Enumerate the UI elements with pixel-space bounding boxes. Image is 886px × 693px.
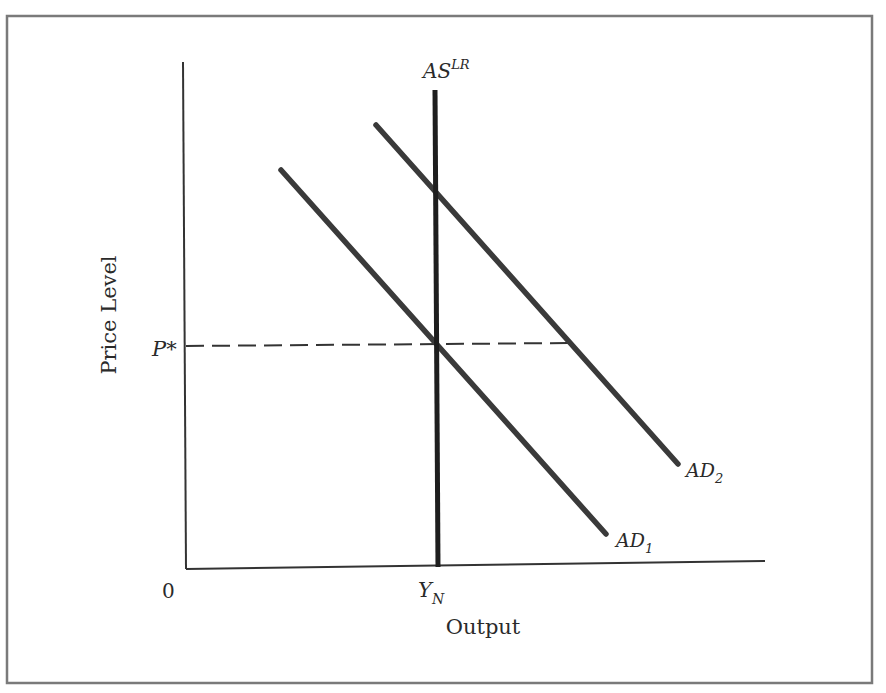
ad1-label: AD1 [614,529,653,556]
y-axis-label: Price Level [97,255,121,374]
p-star-dashed-line [186,343,572,346]
x-axis-label: Output [446,615,521,639]
ad2-curve [376,125,678,464]
origin-label: 0 [162,579,175,603]
as-lr-label: ASLR [421,57,470,83]
x-axis [186,561,765,569]
yn-label: YN [418,578,445,607]
p-star-label: P* [151,337,177,361]
ad1-curve [281,170,606,534]
ad2-label: AD2 [684,459,723,486]
as-lr-curve [435,90,438,567]
chart-figure: Price Level P* 0 YN Output ASLR AD1 AD2 [0,0,886,693]
y-axis [183,62,186,569]
